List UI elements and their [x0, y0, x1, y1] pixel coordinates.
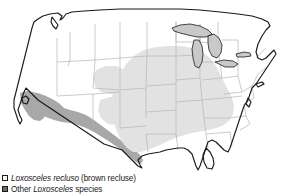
chesapeake-detail: [246, 98, 251, 107]
legend-swatch-light-icon: [2, 175, 8, 181]
lake-huron-shape: [208, 34, 222, 58]
legend-prefix-other: Other: [11, 185, 33, 194]
legend-item-recluse: Loxosceles recluso (brown recluse): [2, 173, 280, 183]
us-distribution-map: [0, 0, 282, 172]
legend-common-recluse: (brown recluse): [79, 174, 136, 183]
legend-item-other-species: Other Loxosceles species: [2, 184, 280, 194]
legend-label-recluse: Loxosceles recluso (brown recluse): [11, 174, 136, 183]
brown-recluse-distribution-figure: Loxosceles recluso (brown recluse) Other…: [0, 0, 282, 196]
lake-erie-shape: [215, 60, 238, 67]
lake-superior-shape: [172, 24, 212, 37]
legend-species-other: Loxosceles: [33, 185, 73, 194]
florida-peninsula-detail: [203, 148, 214, 169]
legend-species-recluse: Loxosceles recluso: [11, 174, 79, 183]
legend-common-other: species: [73, 185, 102, 194]
legend-label-other-species: Other Loxosceles species: [11, 185, 102, 194]
legend-swatch-dark-icon: [2, 186, 8, 192]
map-svg: [0, 0, 282, 172]
puget-sound-detail: [51, 17, 58, 29]
map-legend: Loxosceles recluso (brown recluse) Other…: [2, 173, 280, 195]
